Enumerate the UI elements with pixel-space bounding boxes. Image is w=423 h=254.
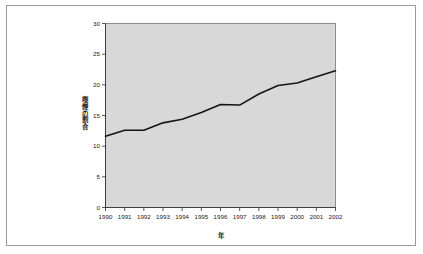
x-tick-label: 1995: [194, 213, 208, 220]
x-tick-label: 2001: [309, 213, 323, 220]
y-tick-label: 25: [93, 50, 100, 57]
x-tick-label: 1997: [233, 213, 247, 220]
chart-canvas: 051015202530 199019911992199319941995199…: [7, 6, 417, 247]
x-tick-label: 1998: [252, 213, 266, 220]
y-tick-label: 30: [93, 20, 100, 27]
figure-frame: 051015202530 199019911992199319941995199…: [6, 5, 416, 246]
x-tick-label: 1990: [99, 213, 113, 220]
x-tick-label: 1994: [175, 213, 189, 220]
x-axis-title: 年: [218, 231, 225, 240]
y-tick-label: 20: [93, 81, 100, 88]
y-axis-title-char: 合: [81, 122, 89, 131]
y-tick-label: 5: [97, 173, 101, 180]
x-tick-label: 1992: [137, 213, 151, 220]
x-tick-label: 1991: [118, 213, 132, 220]
x-tick-label: 2000: [290, 213, 304, 220]
x-tick-label: 2002: [329, 213, 343, 220]
y-tick-label: 10: [93, 142, 100, 149]
x-tick-label: 1999: [271, 213, 285, 220]
x-tick-label: 1996: [214, 213, 228, 220]
y-tick-label: 0: [97, 204, 101, 211]
plot-area-background: [106, 24, 336, 208]
y-axis: 051015202530: [93, 20, 105, 211]
x-tick-label: 1993: [156, 213, 170, 220]
line-chart: 051015202530 199019911992199319941995199…: [7, 6, 417, 247]
y-tick-label: 15: [93, 112, 100, 119]
y-axis-title: 喫煙の割合: [81, 95, 89, 131]
x-axis: 1990199119921993199419951996199719981999…: [99, 208, 343, 220]
